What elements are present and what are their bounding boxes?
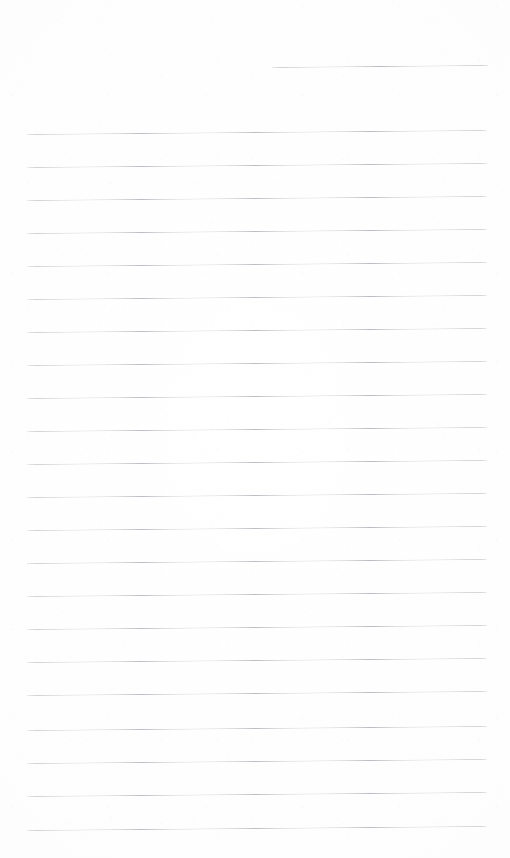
rule-21 <box>27 792 487 797</box>
rule-08 <box>27 361 487 366</box>
rule-16 <box>27 625 487 630</box>
rule-18 <box>27 691 487 696</box>
rule-13 <box>27 526 487 531</box>
rule-05 <box>27 262 487 267</box>
rule-20 <box>27 759 487 764</box>
rule-09 <box>27 394 487 399</box>
rule-10 <box>27 427 487 432</box>
rule-01 <box>27 130 487 135</box>
rule-02 <box>27 163 487 168</box>
rule-12 <box>27 493 487 498</box>
rule-03 <box>27 196 487 201</box>
rule-04 <box>27 229 487 234</box>
rule-22 <box>27 826 487 831</box>
rule-11 <box>27 460 487 465</box>
rule-17 <box>27 658 487 663</box>
header-rule <box>272 65 488 68</box>
rule-15 <box>27 592 487 597</box>
ruled-lines-layer <box>0 0 510 858</box>
rule-19 <box>27 726 487 731</box>
rule-06 <box>27 295 487 300</box>
rule-14 <box>27 559 487 564</box>
rule-07 <box>27 328 487 333</box>
notebook-page <box>0 0 510 858</box>
